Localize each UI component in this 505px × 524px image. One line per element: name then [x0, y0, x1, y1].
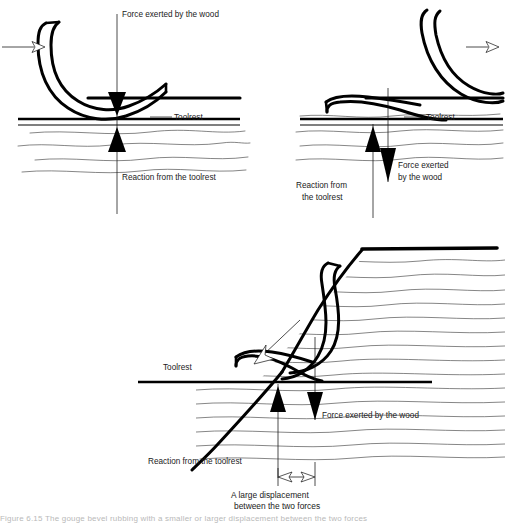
- figure-container: Force exerted by the wood Reaction from …: [0, 0, 505, 524]
- label-reaction-top-right-line2: the toolrest: [302, 193, 343, 202]
- label-force-top-right-line2: by the wood: [398, 173, 443, 182]
- label-toolrest-bottom: Toolrest: [163, 363, 192, 372]
- label-reaction-top-left: Reaction from the toolrest: [122, 173, 216, 182]
- wood-grain-lines: [196, 260, 505, 460]
- reaction-arrowhead-up: [365, 126, 381, 152]
- wood-lower-edge: [192, 372, 282, 470]
- label-force-bottom: Force exerted by the wood: [322, 411, 419, 420]
- handle-push-arrow: [466, 42, 499, 53]
- panel-bottom: Toolrest Force exerted by the wood React…: [138, 248, 505, 511]
- reaction-arrowhead-up: [108, 127, 126, 152]
- wood-top-edge: [362, 248, 497, 249]
- panel-top-left: Force exerted by the wood Reaction from …: [2, 10, 250, 214]
- gouge-mouth-cap-left: [46, 22, 59, 23]
- label-reaction-bottom: Reaction from the toolrest: [148, 457, 242, 466]
- gouge-outer-wall: [38, 23, 166, 119]
- force-arrowhead-down: [307, 392, 323, 420]
- label-force-top-left: Force exerted by the wood: [122, 10, 219, 19]
- label-displacement-line1: A large displacement: [231, 490, 309, 500]
- wood-grain-lines: [296, 114, 503, 161]
- label-displacement-line2: between the two forces: [234, 501, 320, 511]
- wood-grain-lines: [18, 130, 250, 172]
- figure-caption-text: Figure 6.15 The gouge bevel rubbing with…: [0, 513, 505, 524]
- label-reaction-top-right-line1: Reaction from: [296, 181, 347, 190]
- panel-top-right: Toolrest Force exerted by the wood React…: [296, 10, 503, 218]
- label-force-top-right-line1: Force exerted: [398, 161, 449, 170]
- force-arrowhead-down: [380, 148, 396, 182]
- figure-caption: Figure 6.15 The gouge bevel rubbing with…: [0, 513, 505, 524]
- label-toolrest-top-left: Toolrest: [174, 113, 203, 122]
- force-arrowhead-down: [108, 92, 126, 116]
- gouge-mouth-cap-left: [326, 102, 327, 112]
- displacement-dimension: [278, 462, 315, 486]
- woodturning-force-diagram: Force exerted by the wood Reaction from …: [0, 0, 505, 524]
- label-toolrest-top-right: Toolrest: [426, 113, 455, 122]
- gouge-mouth-cap-top: [328, 263, 340, 266]
